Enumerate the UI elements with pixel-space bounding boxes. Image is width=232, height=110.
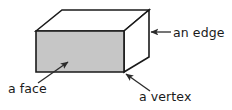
label-an-edge: an edge (173, 25, 225, 40)
cuboid-diagram: an edge a face a vertex (0, 0, 232, 110)
label-a-vertex: a vertex (139, 89, 191, 104)
cuboid-front-face (36, 31, 124, 72)
label-a-face: a face (8, 81, 47, 96)
diagram-canvas: an edge a face a vertex (0, 0, 232, 110)
